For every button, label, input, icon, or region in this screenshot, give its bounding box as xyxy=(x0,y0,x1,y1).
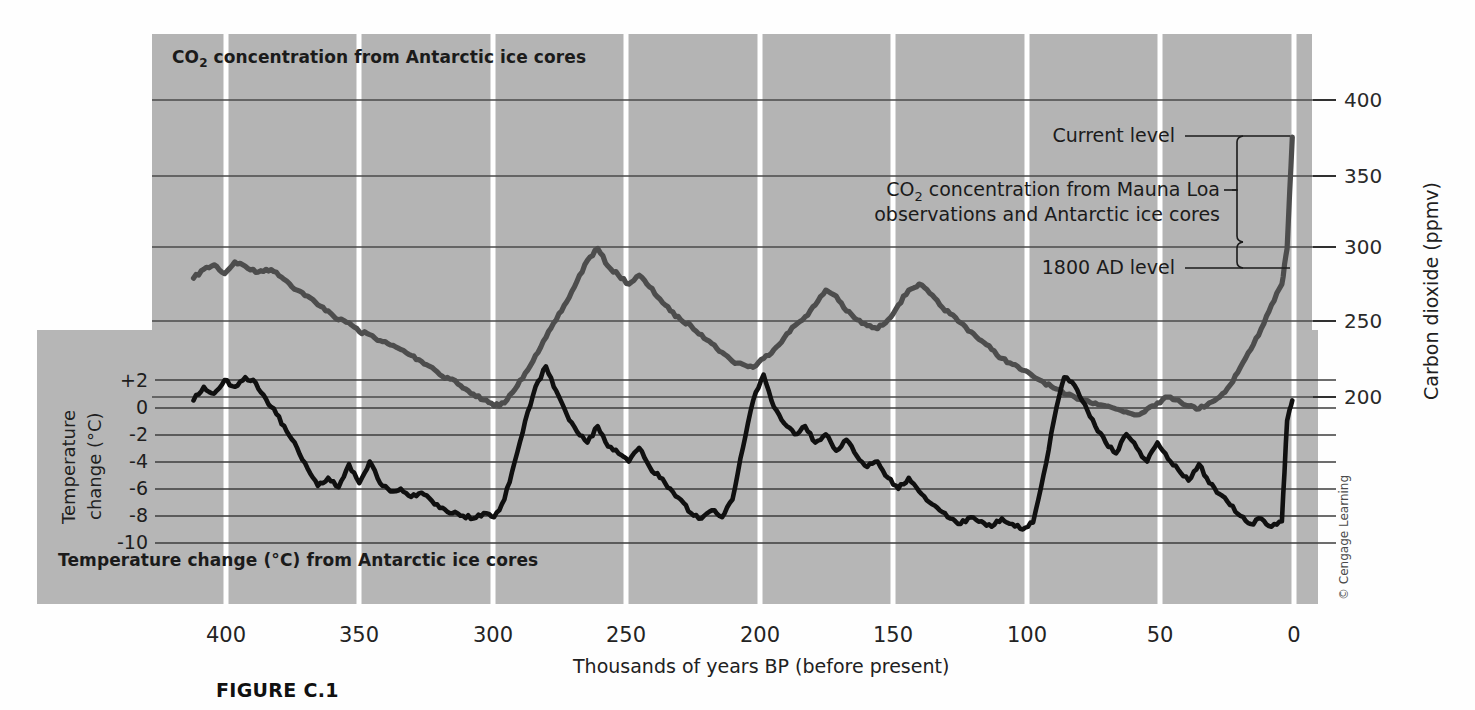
temperature-panel-title: Temperature change (°C) from Antarctic i… xyxy=(58,550,538,570)
figure-container: CO2 concentration from Antarctic ice cor… xyxy=(0,0,1475,710)
temp-tick-minus4: -4 xyxy=(100,450,148,472)
x-tick-50: 50 xyxy=(1147,623,1174,647)
figure-caption: FIGURE C.1 xyxy=(216,679,339,701)
temperature-axis-title-line1: Temperature xyxy=(58,410,79,524)
co2-panel-title: CO2 concentration from Antarctic ice cor… xyxy=(172,47,586,70)
temp-tick-minus6: -6 xyxy=(100,477,148,499)
annotation-mauna-loa-line1: CO2 concentration from Mauna Loa xyxy=(855,178,1220,204)
x-tick-150: 150 xyxy=(873,623,913,647)
x-axis-title: Thousands of years BP (before present) xyxy=(573,655,949,677)
temp-tick-minus8: -8 xyxy=(100,504,148,526)
temperature-axis-title-line2: change (°C) xyxy=(84,412,105,520)
annotation-mauna-loa-line2: observations and Antarctic ice cores xyxy=(855,203,1220,225)
co2-axis-ticks xyxy=(1313,100,1336,397)
x-tick-200: 200 xyxy=(740,623,780,647)
x-tick-250: 250 xyxy=(606,623,646,647)
temp-tick-0: 0 xyxy=(100,396,148,418)
co2-tick-250: 250 xyxy=(1344,309,1382,333)
x-tick-350: 350 xyxy=(339,623,379,647)
vertical-gridlines xyxy=(226,34,1294,604)
x-tick-100: 100 xyxy=(1007,623,1047,647)
co2-tick-200: 200 xyxy=(1344,385,1382,409)
chart-canvas xyxy=(0,0,1475,710)
co2-axis-title: Carbon dioxide (ppmv) xyxy=(1420,182,1442,400)
x-tick-300: 300 xyxy=(473,623,513,647)
temp-tick-plus2: +2 xyxy=(100,369,148,391)
temp-tick-minus10: -10 xyxy=(94,531,148,553)
annotation-current-level: Current level xyxy=(935,124,1175,146)
x-tick-0: 0 xyxy=(1287,623,1300,647)
co2-tick-400: 400 xyxy=(1344,88,1382,112)
co2-tick-300: 300 xyxy=(1344,235,1382,259)
co2-tick-350: 350 xyxy=(1344,164,1382,188)
temp-tick-minus2: -2 xyxy=(100,423,148,445)
annotation-1800-ad-level: 1800 AD level xyxy=(935,256,1175,278)
x-tick-400: 400 xyxy=(206,623,246,647)
copyright-credit: © Cengage Learning xyxy=(1337,475,1351,600)
